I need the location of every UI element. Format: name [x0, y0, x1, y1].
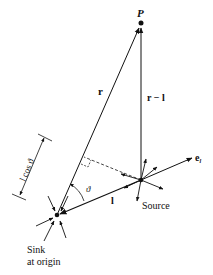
source-label: Source — [142, 200, 170, 211]
r-vector-label: r — [98, 85, 103, 97]
sink-arrows — [36, 196, 68, 241]
projection-label: l cos ϑ — [18, 157, 37, 183]
sink-dot — [55, 213, 60, 218]
e-l-vector-line — [141, 158, 192, 180]
r-minus-l-label: r − l — [147, 92, 165, 103]
angle-arc — [70, 184, 84, 201]
point-p-dot — [139, 21, 144, 26]
source-dot — [139, 178, 144, 183]
sink-label-line2: at origin — [27, 256, 61, 267]
e-l-label: el — [195, 152, 201, 164]
point-p-label: P — [137, 7, 144, 19]
right-angle-marker — [81, 160, 91, 167]
perpendicular-dashed-line — [84, 157, 141, 180]
dipole-diagram: P r r − l l ϑ el l cos ϑ Source Sink at … — [0, 0, 213, 275]
projection-tick-top — [38, 134, 52, 141]
l-vector-label: l — [111, 195, 114, 206]
angle-label: ϑ — [86, 184, 91, 194]
sink-label-line1: Sink — [27, 244, 45, 255]
projection-tick-bottom — [12, 194, 26, 200]
